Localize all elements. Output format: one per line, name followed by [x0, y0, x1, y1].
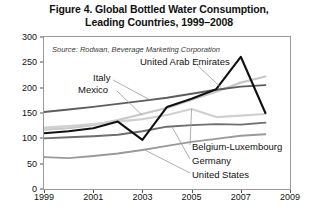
- figure-title-line-1: Figure 4. Global Bottled Water Consumpti…: [0, 3, 318, 16]
- x-tick-label: 2007: [221, 192, 261, 202]
- x-tick-label: 2009: [270, 192, 310, 202]
- y-tick-label: 50: [0, 159, 37, 169]
- figure-title-line-2: Leading Countries, 1999–2008: [0, 16, 318, 29]
- x-tick-label: 2005: [172, 192, 212, 202]
- x-tick-label: 1999: [24, 192, 64, 202]
- x-tick-mark: [142, 190, 143, 193]
- figure-container: Figure 4. Global Bottled Water Consumpti…: [0, 0, 318, 212]
- annotation-belgium-luxembourg: Belgium-Luxembourg: [192, 141, 282, 152]
- x-tick-mark: [93, 190, 94, 193]
- annotation-mexico: Mexico: [78, 84, 108, 95]
- x-tick-mark: [44, 190, 45, 193]
- x-tick-mark: [290, 190, 291, 193]
- y-tick-label: 200: [0, 83, 37, 93]
- x-tick-label: 2001: [73, 192, 113, 202]
- y-tick-label: 250: [0, 57, 37, 67]
- annotation-germany: Germany: [192, 155, 231, 166]
- y-tick-label: 300: [0, 32, 37, 42]
- annotation-uae: United Arab Emirates: [140, 56, 230, 67]
- x-tick-label: 2003: [122, 192, 162, 202]
- annotation-italy: Italy: [93, 72, 110, 83]
- figure-title: Figure 4. Global Bottled Water Consumpti…: [0, 3, 318, 28]
- annotation-united-states: United States: [192, 169, 249, 180]
- x-tick-mark: [192, 190, 193, 193]
- source-note: Source: Rodwan, Beverage Marketing Corpo…: [52, 45, 220, 54]
- y-tick-label: 100: [0, 133, 37, 143]
- y-tick-label: 150: [0, 108, 37, 118]
- x-tick-mark: [241, 190, 242, 193]
